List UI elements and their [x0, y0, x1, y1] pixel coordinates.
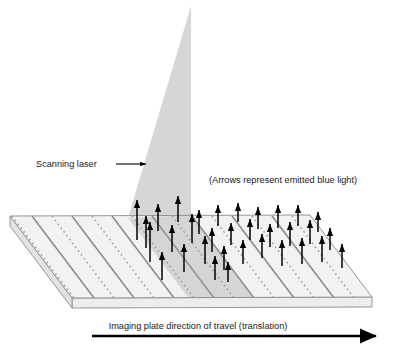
imaging-plate-diagram: Scanning laser (Arrows represent emitted… — [0, 0, 397, 347]
scanning-laser-label: Scanning laser — [36, 159, 97, 169]
translation-label: Imaging plate direction of travel (trans… — [109, 321, 288, 331]
diagram-canvas: Scanning laser (Arrows represent emitted… — [0, 0, 397, 347]
scanning-laser-beam — [128, 6, 191, 218]
plate-front-face — [72, 297, 372, 308]
arrows-legend-label: (Arrows represent emitted blue light) — [209, 175, 357, 185]
